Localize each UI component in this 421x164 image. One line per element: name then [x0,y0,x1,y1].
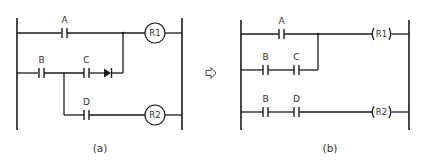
contact-c: C [83,55,89,78]
right-arrow-outline-icon [206,68,216,79]
coil-r2-label: R2 [376,107,387,117]
coil-r1: R1 [145,23,165,43]
contact-b-label: B [262,94,268,104]
rung-2-b: B C [241,34,318,75]
contact-c-label: C [293,52,299,62]
rung-3-b: B D R2 [241,94,409,118]
diode-icon [104,68,112,78]
contact-b: B [38,55,44,78]
coil-r1-label: R1 [376,29,387,39]
contact-b-label: B [38,55,44,65]
coil-r2-label: R2 [149,110,160,120]
contact-d-label: D [293,94,300,104]
contact-d-label: D [83,97,90,107]
contact-d: D [293,94,300,117]
contact-d: D [83,97,90,120]
rung-3-a: D R2 [64,73,182,125]
rung-2-a: B C [17,33,123,78]
coil-r1: R1 [372,28,391,40]
caption-a: (a) [93,142,108,154]
rung-1-b: A R1 [241,16,409,40]
contact-b: B [262,52,268,75]
contact-c-label: C [83,55,89,65]
contact-a-label: A [278,16,285,26]
contact-a: A [61,15,68,38]
contact-b: B [262,94,268,117]
coil-r2: R2 [145,105,165,125]
ladder-diagram-figure: A R1 B C [0,0,421,164]
contact-b-label: B [262,52,268,62]
contact-c: C [293,52,299,75]
ladder-diagram-a: A R1 B C [17,15,182,154]
coil-r2: R2 [372,106,391,118]
contact-a: A [278,16,285,39]
contact-a-label: A [61,15,68,25]
ladder-diagram-b: A R1 B C [241,16,409,154]
rung-1-a: A R1 [17,15,182,43]
coil-r1-label: R1 [149,28,160,38]
caption-b: (b) [323,142,338,154]
